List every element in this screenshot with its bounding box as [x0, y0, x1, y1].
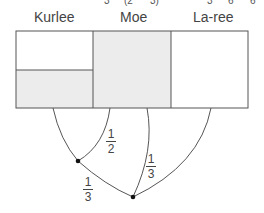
node-2 [131, 195, 136, 200]
fraction-one-third-left: 1 3 [82, 176, 94, 203]
curve-kurlee [53, 108, 78, 161]
kurlee-shaded-half [16, 70, 93, 108]
moe-shaded-area [93, 31, 171, 108]
diagram [0, 0, 264, 213]
fraction-one-half: 1 2 [105, 128, 117, 155]
fraction-one-third-right: 1 3 [145, 153, 157, 180]
node-1 [76, 159, 81, 164]
